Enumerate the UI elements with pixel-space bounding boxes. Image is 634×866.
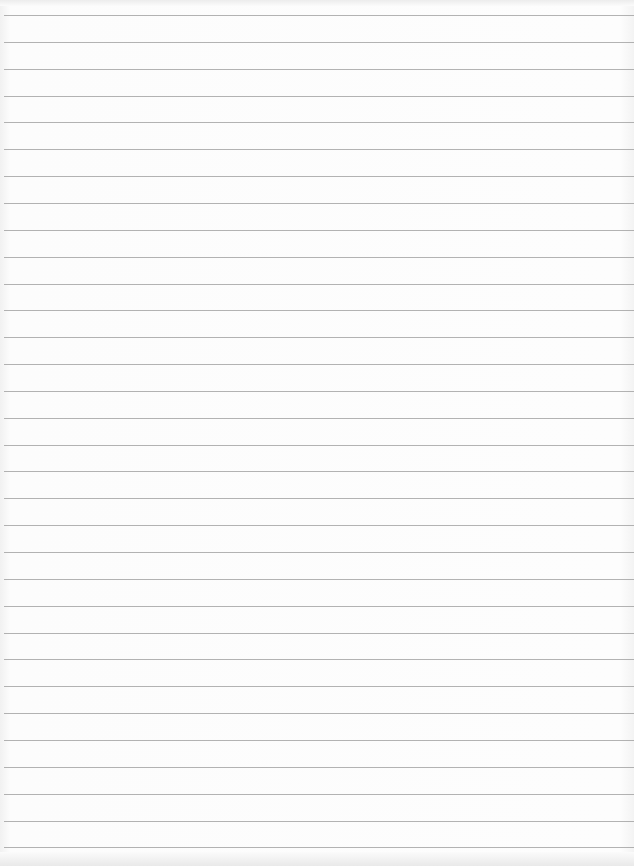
ruled-line [4, 364, 634, 365]
ruled-line [4, 471, 634, 472]
ruled-line [4, 633, 634, 634]
ruled-line [4, 713, 634, 714]
ruled-line [4, 606, 634, 607]
ruled-line [4, 96, 634, 97]
ruled-line [4, 15, 634, 16]
ruled-line [4, 203, 634, 204]
ruled-line [4, 552, 634, 553]
ruled-line [4, 767, 634, 768]
ruled-line [4, 257, 634, 258]
lined-paper [0, 0, 634, 866]
ruled-line [4, 445, 634, 446]
ruled-line [4, 579, 634, 580]
ruled-line [4, 686, 634, 687]
ruled-line [4, 230, 634, 231]
ruled-line [4, 498, 634, 499]
paper-bottom-edge [0, 852, 634, 866]
ruled-line [4, 740, 634, 741]
ruled-line [4, 176, 634, 177]
ruled-line [4, 794, 634, 795]
ruled-line [4, 847, 634, 848]
ruled-line [4, 310, 634, 311]
ruled-line [4, 122, 634, 123]
ruled-line [4, 821, 634, 822]
ruled-line [4, 69, 634, 70]
ruled-line [4, 42, 634, 43]
ruled-line [4, 284, 634, 285]
ruled-line [4, 659, 634, 660]
ruled-line [4, 391, 634, 392]
paper-top-edge [0, 0, 634, 6]
ruled-line [4, 418, 634, 419]
ruled-line [4, 337, 634, 338]
ruled-line [4, 525, 634, 526]
ruled-line [4, 149, 634, 150]
